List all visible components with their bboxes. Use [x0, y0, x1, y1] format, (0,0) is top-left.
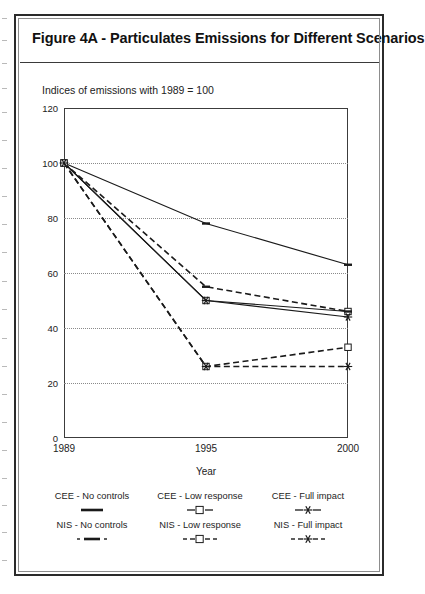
legend-swatch-square	[177, 503, 223, 517]
series-nis-full-impact	[60, 159, 352, 370]
x-axis-tick-label: 2000	[337, 443, 359, 454]
legend-item-label: NIS - Full impact	[254, 519, 362, 532]
x-axis-tick-label: 1989	[53, 443, 75, 454]
legend-swatch-asterisk	[285, 503, 331, 517]
chart-legend: CEE - No controlsCEE - Low responseCEE -…	[38, 490, 362, 564]
legend-item[interactable]: NIS - Low response	[146, 519, 254, 546]
legend-item[interactable]: CEE - No controls	[38, 490, 146, 517]
series-line	[64, 163, 348, 367]
y-axis-tick-label: 0	[53, 433, 58, 444]
x-axis-title: Year	[64, 466, 348, 477]
series-line	[64, 163, 348, 312]
series-layer	[64, 108, 348, 438]
y-axis-tick-label: 20	[47, 378, 58, 389]
legend-item-label: NIS - Low response	[146, 519, 254, 532]
legend-swatch-dash	[69, 532, 115, 546]
title-divider	[20, 62, 380, 63]
series-cee-no-controls	[60, 163, 352, 265]
legend-item-label: CEE - Full impact	[254, 490, 362, 503]
legend-item[interactable]: CEE - Low response	[146, 490, 254, 517]
legend-swatch-dash	[69, 503, 115, 517]
legend-swatch-square	[177, 532, 223, 546]
series-line	[64, 163, 348, 312]
data-point-marker-asterisk	[344, 363, 352, 370]
scan-edge-marks	[0, 0, 10, 594]
x-axis-tick-label: 1995	[195, 443, 217, 454]
legend-item-label: CEE - Low response	[146, 490, 254, 503]
legend-item[interactable]: NIS - Full impact	[254, 519, 362, 546]
series-line	[64, 163, 348, 265]
y-axis-tick-label: 100	[42, 158, 58, 169]
y-axis-tick-label: 120	[42, 103, 58, 114]
page-title: Figure 4A - Particulates Emissions for D…	[32, 30, 425, 46]
legend-item-label: NIS - No controls	[38, 519, 146, 532]
data-point-marker-square	[345, 344, 351, 350]
legend-item[interactable]: NIS - No controls	[38, 519, 146, 546]
y-axis-tick-label: 40	[47, 323, 58, 334]
figure-card: Figure 4A - Particulates Emissions for D…	[14, 14, 384, 576]
series-cee-low-response	[61, 160, 351, 315]
series-line	[64, 163, 348, 367]
y-axis-tick-label: 80	[47, 213, 58, 224]
chart-plot-area: 020406080100120 198919952000 Year	[64, 108, 348, 438]
y-axis-tick-label: 60	[47, 268, 58, 279]
legend-item[interactable]: CEE - Full impact	[254, 490, 362, 517]
legend-item-label: CEE - No controls	[38, 490, 146, 503]
series-line	[64, 163, 348, 317]
chart-subtitle: Indices of emissions with 1989 = 100	[42, 84, 214, 96]
legend-swatch-asterisk	[285, 532, 331, 546]
series-nis-no-controls	[60, 163, 352, 312]
series-nis-low-response	[61, 160, 351, 370]
series-cee-full-impact	[60, 159, 352, 320]
